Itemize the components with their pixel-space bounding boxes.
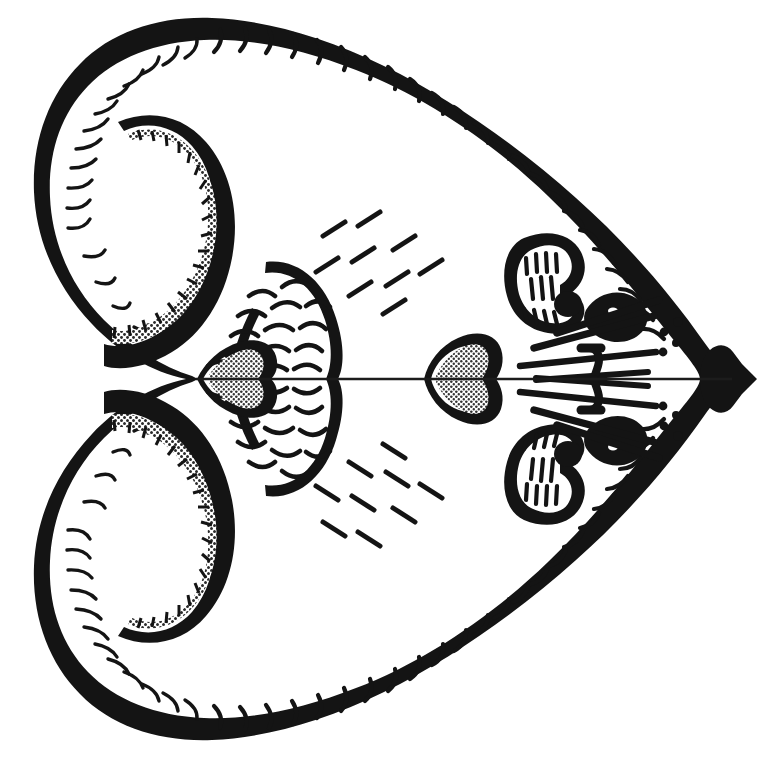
- figure-root: [0, 0, 776, 758]
- illustration-plate: [0, 0, 776, 758]
